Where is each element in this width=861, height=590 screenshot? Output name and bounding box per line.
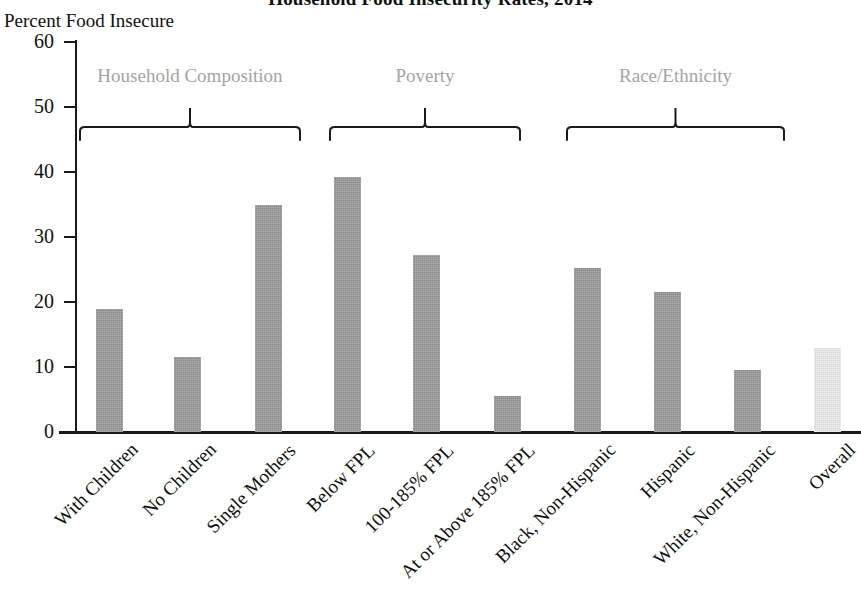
- bar: [255, 205, 282, 433]
- bar: [574, 268, 601, 432]
- bar: [734, 370, 761, 432]
- x-axis-category-label: Hispanic: [637, 440, 698, 501]
- x-axis-category-labels: With ChildrenNo ChildrenSingle MothersBe…: [0, 434, 861, 590]
- bar: [654, 292, 681, 432]
- bar: [96, 309, 123, 433]
- group-label: Race/Ethnicity: [565, 66, 786, 85]
- chart-title: Household Food Insecurity Rates, 2014: [0, 0, 861, 10]
- bar-chart: Household Food Insecurity Rates, 2014 Pe…: [0, 0, 861, 590]
- x-axis-category-label: At or Above 185% FPL: [397, 440, 538, 581]
- group-label: Household Composition: [78, 66, 302, 85]
- x-axis-category-label: With Children: [51, 440, 141, 530]
- bar: [814, 348, 841, 432]
- bar: [334, 177, 361, 432]
- x-axis-category-label: Overall: [805, 440, 859, 494]
- bars-container: [0, 42, 861, 432]
- group-bracket: [565, 106, 786, 140]
- bar: [413, 255, 440, 432]
- bar: [174, 357, 201, 432]
- x-axis-category-label: Below FPL: [303, 440, 378, 515]
- y-axis-title: Percent Food Insecure: [4, 10, 174, 32]
- x-axis-category-label: No Children: [139, 440, 219, 520]
- bar: [494, 396, 521, 432]
- group-bracket: [328, 106, 522, 140]
- group-bracket: [78, 106, 302, 140]
- group-label: Poverty: [328, 66, 522, 85]
